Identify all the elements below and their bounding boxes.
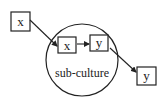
diagram-canvas: sub-culture x x y y <box>0 0 165 97</box>
node-outer-x: x <box>11 12 30 31</box>
node-outer-y: y <box>137 67 156 85</box>
node-inner-y: y <box>90 35 108 52</box>
inner-x-label: x <box>64 38 71 53</box>
outer-x-label: x <box>17 14 24 29</box>
sub-culture-label: sub-culture <box>55 66 109 80</box>
outer-y-label: y <box>143 68 150 83</box>
arrow-inner-y-to-outer-y <box>110 48 136 72</box>
arrow-outer-x-to-inner-x <box>30 20 57 46</box>
node-inner-x: x <box>58 37 76 53</box>
inner-y-label: y <box>96 35 103 50</box>
